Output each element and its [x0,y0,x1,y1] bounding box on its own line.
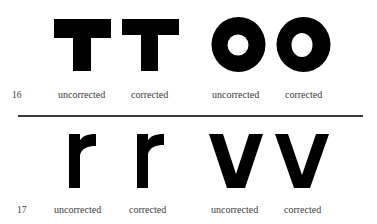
figure-number: 17 [17,204,27,216]
label-uncorrected: uncorrected [212,89,259,101]
glyph-v-corrected [275,134,330,189]
glyph-T-uncorrected [54,19,112,72]
label-corrected: corrected [284,204,321,216]
glyph-r-corrected [137,133,165,189]
glyph-T-corrected [122,19,180,72]
label-corrected: corrected [285,89,322,101]
label-uncorrected: uncorrected [54,204,101,216]
label-corrected: corrected [131,89,168,101]
divider-rule [18,115,363,117]
glyph-O-uncorrected [211,17,266,73]
glyph-r-uncorrected [69,133,97,189]
label-corrected: corrected [129,204,166,216]
figure-number: 16 [12,89,22,101]
label-uncorrected: uncorrected [58,89,105,101]
label-uncorrected: uncorrected [211,204,258,216]
glyph-v-uncorrected [209,134,264,189]
glyph-O-corrected [276,17,331,73]
